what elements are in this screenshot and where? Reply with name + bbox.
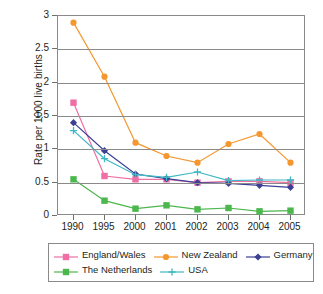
x-tick-mark: [259, 215, 260, 220]
gridline: [58, 116, 304, 117]
x-tick-mark: [104, 215, 105, 220]
legend-marker-icon: [54, 264, 78, 276]
data-point-marker: [162, 253, 168, 259]
chart-figure: Rate per 1000 live births 00.511.522.53 …: [0, 0, 323, 294]
data-point-marker: [256, 208, 262, 214]
series-line: [74, 23, 291, 163]
data-point-marker: [225, 141, 231, 147]
data-point-marker: [194, 168, 201, 175]
data-point-marker: [70, 176, 76, 182]
x-tick-mark: [73, 215, 74, 220]
gridline: [58, 83, 304, 84]
series-line: [74, 103, 291, 183]
y-tick-label: 1.5: [0, 110, 49, 120]
legend-item[interactable]: New Zealand: [154, 249, 238, 261]
legend-marker-icon: [54, 249, 78, 261]
x-tick-mark: [135, 215, 136, 220]
data-point-marker: [225, 205, 231, 211]
data-point-marker: [132, 205, 138, 211]
plot-area: [57, 15, 305, 215]
data-point-marker: [63, 253, 69, 259]
data-point-marker: [101, 74, 107, 80]
legend-item[interactable]: Germany: [246, 249, 313, 261]
y-tick-label: 0.5: [0, 177, 49, 187]
x-tick-label: 2005: [270, 221, 310, 232]
legend-row: The NetherlandsUSA: [54, 262, 308, 277]
legend-label: USA: [188, 264, 208, 275]
data-point-marker: [287, 207, 293, 213]
series-new-zealand: [70, 20, 293, 166]
y-tick-mark: [52, 215, 57, 216]
data-point-marker: [256, 131, 262, 137]
legend-label: England/Wales: [82, 249, 146, 260]
data-point-marker: [101, 197, 107, 203]
data-point-marker: [101, 173, 107, 179]
data-point-marker: [169, 268, 176, 275]
data-point-marker: [70, 99, 76, 105]
legend-item[interactable]: The Netherlands: [54, 264, 152, 276]
legend-item[interactable]: England/Wales: [54, 249, 146, 261]
legend-row: England/WalesNew ZealandGermany: [54, 247, 308, 262]
legend-label: New Zealand: [182, 249, 238, 260]
data-point-marker: [63, 268, 69, 274]
y-tick-label: 3: [0, 10, 49, 20]
x-tick-mark: [228, 215, 229, 220]
legend-marker-icon: [154, 249, 178, 261]
x-tick-mark: [290, 215, 291, 220]
y-tick-label: 1: [0, 143, 49, 153]
data-point-marker: [132, 140, 138, 146]
data-point-marker: [194, 160, 200, 166]
data-point-marker: [163, 202, 169, 208]
gridline: [58, 183, 304, 184]
legend-marker-icon: [246, 249, 270, 261]
data-point-marker: [194, 206, 200, 212]
x-tick-mark: [166, 215, 167, 220]
y-tick-label: 0: [0, 210, 49, 220]
data-point-marker: [287, 160, 293, 166]
legend-label: The Netherlands: [82, 264, 152, 275]
gridline: [58, 49, 304, 50]
data-point-marker: [163, 153, 169, 159]
data-point-marker: [70, 20, 76, 26]
chart-legend: England/WalesNew ZealandGermany The Neth…: [48, 243, 314, 282]
legend-item[interactable]: USA: [160, 264, 208, 276]
series-england-wales: [70, 99, 293, 185]
data-point-marker: [254, 253, 261, 260]
legend-label: Germany: [274, 249, 313, 260]
y-tick-label: 2.5: [0, 43, 49, 53]
x-tick-mark: [197, 215, 198, 220]
y-tick-label: 2: [0, 77, 49, 87]
legend-marker-icon: [160, 264, 184, 276]
gridline: [58, 149, 304, 150]
